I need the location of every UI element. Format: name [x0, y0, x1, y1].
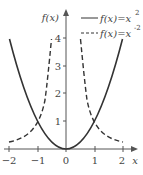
chart: −2 −1 0 1 2 x 1 2 3 4 f(x) f(x)=x 2 f(x)…: [0, 0, 143, 175]
y-tick-label: 1: [55, 116, 61, 127]
y-tick-label: 2: [55, 88, 61, 99]
series-x-inverse-squared-left: [9, 39, 52, 142]
series-x-inverse-squared-right: [81, 39, 124, 142]
x-tick-label: 0: [63, 155, 69, 166]
legend-dashed-exponent: -2: [134, 24, 141, 32]
y-axis-arrow-icon: [63, 9, 69, 16]
x-tick-label: −1: [31, 155, 46, 166]
y-tick-label: 4: [55, 33, 61, 44]
legend-dashed-label: f(x)=x: [99, 28, 132, 39]
x-tick-label: 2: [119, 155, 125, 166]
y-axis-label: f(x): [41, 12, 59, 23]
x-axis-arrow-icon: [131, 146, 138, 152]
x-axis-label: x: [132, 155, 138, 166]
legend-solid-exponent: 2: [135, 9, 139, 17]
x-tick-label: −2: [2, 155, 17, 166]
x-tick-label: 1: [92, 155, 98, 166]
y-tick-label: 3: [55, 61, 61, 72]
legend-solid-label: f(x)=x: [99, 13, 132, 24]
